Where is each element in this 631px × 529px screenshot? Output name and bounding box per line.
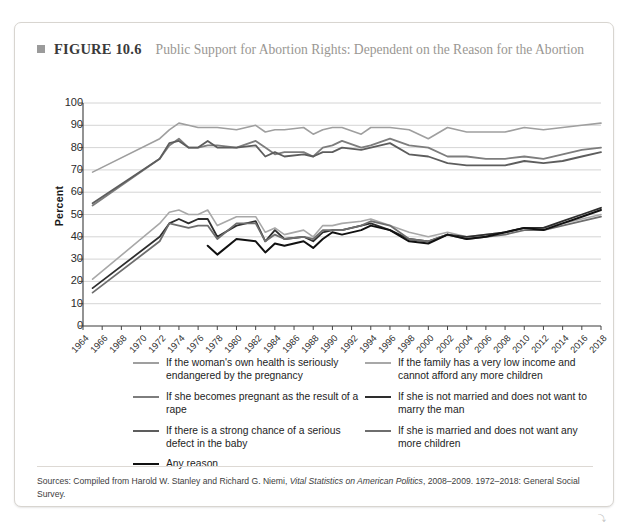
- sources-italic-title: Vital Statistics on American Politics: [290, 476, 423, 486]
- chart-series-line: [93, 208, 601, 288]
- legend-item-label: If she becomes pregnant as the result of…: [166, 390, 365, 417]
- chart-series-line: [93, 210, 601, 279]
- sources-prefix: Sources: Compiled from Harold W. Stanley…: [37, 476, 290, 486]
- legend-swatch-icon: [133, 396, 159, 398]
- legend-item: If the family has a very low income and …: [365, 356, 603, 383]
- corner-mark-icon: ⤵: [598, 512, 606, 523]
- legend-item-label: If the woman's own health is seriously e…: [166, 356, 365, 383]
- chart-legend: If the woman's own health is seriously e…: [133, 356, 603, 478]
- legend-swatch-icon: [133, 362, 159, 364]
- legend-item-label: If the family has a very low income and …: [398, 356, 603, 383]
- legend-item-label: If she is married and does not want any …: [398, 424, 603, 451]
- footer-divider: [37, 466, 593, 467]
- legend-column-right: If the family has a very low income and …: [365, 356, 603, 478]
- chart-series-line: [93, 141, 601, 203]
- legend-item: If she becomes pregnant as the result of…: [133, 390, 365, 417]
- figure-card: FIGURE 10.6 Public Support for Abortion …: [14, 22, 614, 507]
- legend-item: If she is married and does not want any …: [365, 424, 603, 451]
- sources-note: Sources: Compiled from Harold W. Stanley…: [37, 475, 593, 501]
- legend-item-label: If there is a strong chance of a serious…: [166, 424, 365, 451]
- legend-swatch-icon: [133, 430, 159, 432]
- legend-item-label: Any reason: [166, 457, 218, 470]
- legend-column-left: If the woman's own health is seriously e…: [133, 356, 365, 478]
- legend-item: If she is not married and does not want …: [365, 390, 603, 417]
- legend-item: If the woman's own health is seriously e…: [133, 356, 365, 383]
- legend-item-label: If she is not married and does not want …: [398, 390, 603, 417]
- legend-item: Any reason: [133, 457, 365, 470]
- legend-swatch-icon: [365, 362, 391, 364]
- legend-swatch-icon: [365, 430, 391, 432]
- line-chart-svg: [15, 23, 615, 363]
- legend-item: If there is a strong chance of a serious…: [133, 424, 365, 451]
- legend-swatch-icon: [365, 396, 391, 398]
